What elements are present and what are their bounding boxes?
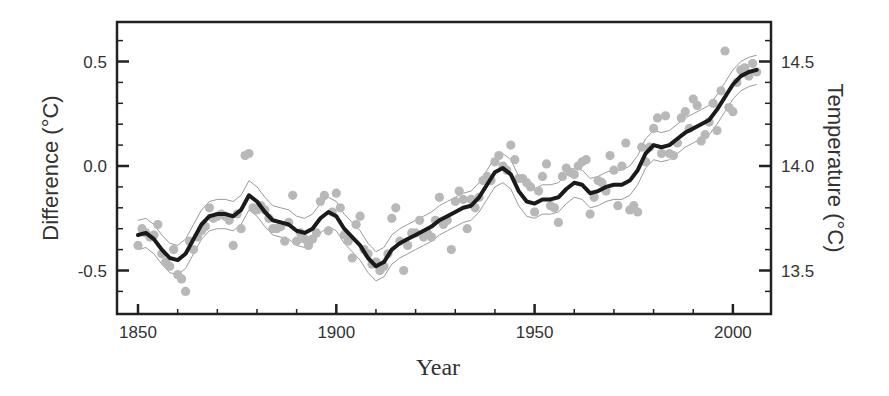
data-point: [463, 224, 472, 233]
x-tick-label: 1850: [119, 323, 157, 342]
scatter-points: [133, 46, 761, 296]
data-point: [712, 126, 721, 135]
data-point: [538, 172, 547, 181]
data-point: [586, 210, 595, 219]
data-point: [177, 274, 186, 283]
data-point: [205, 203, 214, 212]
data-point: [435, 193, 444, 202]
data-point: [387, 214, 396, 223]
data-point: [356, 212, 365, 221]
data-point: [455, 187, 464, 196]
data-point: [229, 241, 238, 250]
data-point: [669, 151, 678, 160]
data-point: [415, 216, 424, 225]
data-point: [653, 113, 662, 122]
data-point: [244, 149, 253, 158]
data-point: [320, 191, 329, 200]
data-point: [633, 207, 642, 216]
temperature-chart: 1850190019502000-0.50.00.513.514.014.5 D…: [0, 0, 889, 396]
data-point: [324, 226, 333, 235]
data-point: [617, 161, 626, 170]
data-point: [709, 99, 718, 108]
data-point: [716, 86, 725, 95]
data-point: [661, 111, 670, 120]
data-point: [494, 151, 503, 160]
data-point: [554, 218, 563, 227]
data-point: [133, 241, 142, 250]
y-right-tick-label: 14.5: [781, 53, 814, 72]
plot-frame: [117, 22, 771, 314]
data-point: [701, 130, 710, 139]
data-point: [582, 155, 591, 164]
data-point: [621, 138, 630, 147]
data-point: [728, 107, 737, 116]
data-point: [558, 172, 567, 181]
y-axis-title: Difference (°C): [38, 95, 63, 240]
smoothed-curve: [138, 70, 757, 266]
data-point: [165, 262, 174, 271]
data-point: [391, 203, 400, 212]
y-axis-right-title: Temperature (°C): [823, 84, 848, 253]
data-point: [748, 59, 757, 68]
tick-labels: 1850190019502000-0.50.00.513.514.014.5: [78, 53, 814, 343]
data-point: [427, 233, 436, 242]
data-point: [550, 203, 559, 212]
data-point: [681, 107, 690, 116]
data-point: [542, 159, 551, 168]
y-right-tick-label: 13.5: [781, 262, 814, 281]
data-point: [288, 191, 297, 200]
data-point: [459, 195, 468, 204]
x-tick-label: 1900: [317, 323, 355, 342]
axis-ticks: [117, 41, 771, 314]
data-point: [506, 141, 515, 150]
data-point: [336, 203, 345, 212]
data-point: [605, 151, 614, 160]
data-point: [352, 220, 361, 229]
y-tick-label: -0.5: [78, 262, 107, 281]
x-tick-label: 2000: [714, 323, 752, 342]
data-point: [332, 189, 341, 198]
data-point: [693, 101, 702, 110]
data-point: [348, 253, 357, 262]
x-tick-label: 1950: [516, 323, 554, 342]
smoothed-line: [138, 70, 757, 266]
x-axis-title: Year: [416, 354, 460, 380]
data-point: [609, 166, 618, 175]
data-point: [280, 237, 289, 246]
data-point: [169, 245, 178, 254]
data-point: [637, 143, 646, 152]
y-tick-label: 0.0: [83, 157, 107, 176]
data-point: [657, 149, 666, 158]
data-point: [530, 207, 539, 216]
data-point: [237, 224, 246, 233]
y-right-tick-label: 14.0: [781, 157, 814, 176]
data-point: [534, 187, 543, 196]
data-point: [451, 197, 460, 206]
data-point: [399, 266, 408, 275]
data-point: [510, 155, 519, 164]
data-point: [181, 287, 190, 296]
data-point: [649, 124, 658, 133]
y-tick-label: 0.5: [83, 53, 107, 72]
data-point: [570, 170, 579, 179]
data-point: [613, 201, 622, 210]
data-point: [720, 46, 729, 55]
data-point: [447, 245, 456, 254]
data-point: [526, 182, 535, 191]
data-point: [153, 220, 162, 229]
data-point: [292, 237, 301, 246]
